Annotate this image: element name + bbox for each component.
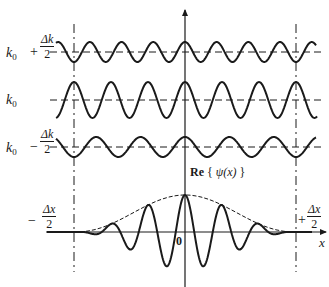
fraction-dk-over-2-top: Δk 2 [40,33,54,60]
label-k-minus: k0 [6,141,17,157]
right-bound-sign: + [298,213,306,227]
left-bound-fraction: Δx 2 [42,203,56,230]
x-axis-label: x [319,236,325,249]
label-k-center: k0 [6,93,17,109]
minus-sign: − [30,140,38,154]
packet-label: Re { ψ(x) } [190,166,245,178]
fraction-dk-over-2-bottom: Δk 2 [40,128,54,155]
right-bound-fraction: Δx 2 [307,203,321,230]
plus-sign: + [30,45,38,59]
origin-label: 0 [176,235,182,247]
left-bound-sign: − [28,214,36,228]
label-k-plus: k0 [6,46,17,62]
wave-packet-diagram: k0 + Δk 2 k0 k0 − Δk 2 Re { ψ(x) } − Δx … [0,0,329,287]
